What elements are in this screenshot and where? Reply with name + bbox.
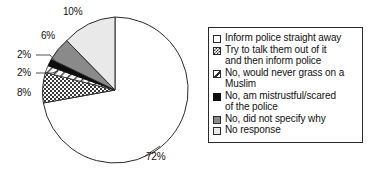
legend-label-line1: Try to talk them out of it (225, 44, 327, 55)
pie-chart-svg (0, 0, 208, 174)
legend-swatch-solid-black (213, 93, 221, 101)
legend-label-mistrustful-scared-of-police: No, am mistrustful/scared of the police (225, 90, 336, 113)
legend-label-line1: No, did not specify why (225, 113, 326, 124)
legend-swatch-light-gray (213, 127, 221, 135)
legend-swatch-diagonal-hatch (213, 70, 221, 78)
legend-label-line2: and then inform police (225, 55, 327, 67)
pie-chart-figure: 10% 6% 2% 2% 8% 72% Inform police straig… (0, 0, 374, 174)
chart-legend: Inform police straight away Try to talk … (208, 27, 363, 143)
legend-label-inform-police-straight-away: Inform police straight away (225, 32, 341, 44)
legend-swatch-dark-gray (213, 116, 221, 124)
legend-label-line2: of the police (225, 101, 336, 113)
pie-label-2-percent-upper: 2% (17, 50, 31, 60)
legend-label-no-response: No response (225, 124, 281, 136)
legend-swatch-white (213, 35, 221, 43)
legend-label-line1: No, am mistrustful/scared (225, 90, 336, 101)
legend-swatch-cross-hatch (213, 47, 221, 55)
legend-label-line1: No, would never grass on a (225, 67, 344, 78)
legend-item-talk-them-out-of-it: Try to talk them out of it and then info… (213, 44, 359, 67)
pie-label-8-percent: 8% (17, 88, 31, 98)
pie-label-6-percent: 6% (41, 31, 55, 41)
legend-label-talk-them-out-of-it: Try to talk them out of it and then info… (225, 44, 327, 67)
legend-item-did-not-specify-why: No, did not specify why (213, 113, 359, 125)
legend-label-line1: Inform police straight away (225, 32, 341, 43)
pie-label-10-percent: 10% (63, 7, 82, 17)
legend-label-line1: No response (225, 124, 281, 135)
legend-label-line2: Muslim (225, 78, 344, 90)
legend-item-no-response: No response (213, 124, 359, 136)
pie-label-72-percent: 72% (146, 152, 165, 162)
legend-label-did-not-specify-why: No, did not specify why (225, 113, 326, 125)
pie-label-2-percent-lower: 2% (17, 68, 31, 78)
legend-item-never-grass-on-a-muslim: No, would never grass on a Muslim (213, 67, 359, 90)
legend-label-never-grass-on-a-muslim: No, would never grass on a Muslim (225, 67, 344, 90)
pie-chart-area: 10% 6% 2% 2% 8% 72% (0, 0, 208, 174)
legend-item-mistrustful-scared-of-police: No, am mistrustful/scared of the police (213, 90, 359, 113)
legend-item-inform-police-straight-away: Inform police straight away (213, 32, 359, 44)
